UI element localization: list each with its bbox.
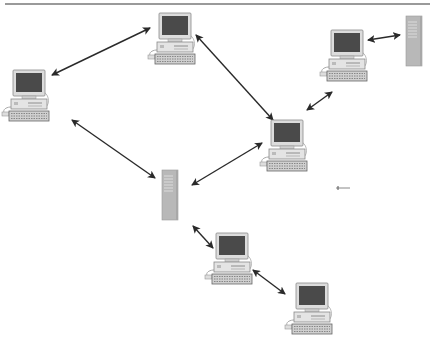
stray-mark [336,186,350,190]
computer-icon-top-center [148,13,195,64]
link-pc-right-center-to-server-center [192,143,262,185]
link-pc-left-to-pc-top-center [52,28,150,75]
link-pc-top-right-to-server-top-right [368,35,400,40]
computer-icon-bottom-center [205,233,252,284]
link-server-center-to-pc-bottom-center [193,226,213,248]
link-pc-bottom-center-to-pc-bottom-right [253,270,285,294]
computer-icon-bottom-right [285,283,332,334]
link-pc-left-to-server-center [72,120,155,178]
link-pc-right-center-to-pc-top-right [307,92,332,110]
computer-icon-right-center [260,120,307,171]
computer-icon-top-right [320,30,367,81]
network-diagram [0,0,442,349]
link-pc-top-center-to-pc-right-center [196,35,273,120]
computer-icon-left [2,70,49,121]
server-icon-center [162,170,178,220]
server-icon-top-right [406,16,422,66]
